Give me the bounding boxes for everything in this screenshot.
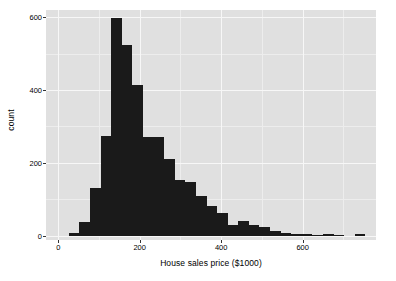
y-axis-tick-mark	[43, 17, 46, 18]
histogram-bar	[111, 18, 122, 235]
gridline-major-vertical	[58, 10, 59, 240]
x-axis-tick-label: 0	[56, 243, 60, 252]
histogram-bar	[281, 233, 292, 236]
x-axis-tick-labels: 0200400600	[0, 243, 396, 257]
histogram-bar	[196, 196, 207, 236]
histogram-bar	[185, 182, 196, 236]
y-axis-tick-mark	[43, 90, 46, 91]
histogram-bar	[334, 235, 345, 236]
x-axis-tick-mark	[140, 240, 141, 243]
plot-panel	[46, 10, 376, 240]
histogram-bar	[207, 206, 218, 236]
histogram-bar	[143, 137, 154, 236]
gridline-minor-horizontal	[46, 126, 376, 127]
histogram-chart: count 0200400600 0200400600 House sales …	[0, 0, 396, 281]
x-axis-tick-mark	[221, 240, 222, 243]
x-axis-tick-mark	[303, 240, 304, 243]
y-axis-tick-label: 600	[20, 13, 42, 22]
gridline-major-horizontal	[46, 163, 376, 164]
histogram-bar	[270, 231, 281, 235]
y-axis-tick-label: 0	[20, 231, 42, 240]
y-axis-tick-labels: 0200400600	[20, 0, 42, 281]
y-axis-tick-label: 400	[20, 86, 42, 95]
histogram-bar	[291, 234, 302, 236]
histogram-bar	[312, 235, 323, 236]
histogram-bar	[228, 225, 239, 236]
y-axis-title: count	[0, 0, 22, 240]
histogram-bar	[302, 234, 313, 235]
histogram-bar	[217, 213, 228, 236]
gridline-major-horizontal	[46, 17, 376, 18]
histogram-bar	[355, 234, 366, 236]
x-axis-tick-label: 200	[133, 243, 146, 252]
x-axis-tick-mark	[58, 240, 59, 243]
histogram-bar	[122, 45, 133, 236]
histogram-bar	[323, 234, 334, 236]
histogram-bar	[238, 221, 249, 236]
histogram-bar	[90, 188, 101, 235]
y-axis-title-text: count	[6, 109, 16, 130]
gridline-minor-vertical	[343, 10, 344, 240]
x-axis-title: House sales price ($1000)	[46, 258, 376, 268]
gridline-major-horizontal	[46, 236, 376, 237]
y-axis-tick-mark	[43, 163, 46, 164]
gridline-major-vertical	[221, 10, 222, 240]
gridline-major-vertical	[303, 10, 304, 240]
x-axis-tick-label: 600	[296, 243, 309, 252]
gridline-major-horizontal	[46, 90, 376, 91]
gridline-minor-vertical	[262, 10, 263, 240]
histogram-bar	[101, 136, 112, 236]
histogram-bar	[175, 180, 186, 235]
histogram-bar	[132, 85, 143, 236]
y-axis-tick-mark	[43, 236, 46, 237]
histogram-bar	[249, 225, 260, 235]
gridline-minor-horizontal	[46, 54, 376, 55]
histogram-bar	[69, 233, 80, 236]
histogram-bar	[154, 137, 165, 235]
histogram-bar	[259, 227, 270, 236]
histogram-bar	[79, 222, 90, 236]
histogram-bar	[164, 159, 175, 236]
y-axis-tick-label: 200	[20, 158, 42, 167]
x-axis-tick-label: 400	[215, 243, 228, 252]
